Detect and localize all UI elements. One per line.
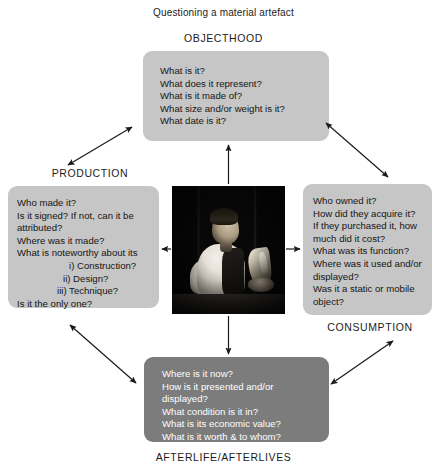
question-item: displayed? bbox=[162, 393, 329, 406]
question-item: much did it cost? bbox=[313, 233, 432, 246]
question-item: What is it made of? bbox=[160, 90, 329, 103]
question-list-consumption: Who owned it? How did they acquire it? I… bbox=[313, 195, 432, 308]
question-item: What is noteworthy about its bbox=[17, 247, 159, 260]
question-item: What is it worth & to whom? bbox=[162, 431, 329, 444]
question-item: Where was it used and/or bbox=[313, 258, 432, 271]
question-item: How did they acquire it? bbox=[313, 208, 432, 221]
question-item: Was it a static or mobile bbox=[313, 283, 432, 296]
question-list-production: Who made it? Is it signed? If not, can i… bbox=[17, 197, 159, 310]
node-label-afterlife: AFTERLIFE/AFTERLIVES bbox=[0, 452, 447, 463]
connector-objecthood-to-consumption bbox=[326, 123, 388, 177]
question-item: displayed? bbox=[313, 271, 432, 284]
question-item: What is it? bbox=[160, 65, 329, 78]
node-box-objecthood: What is it? What does it represent? What… bbox=[143, 51, 329, 141]
question-item: Is it signed? If not, can it be bbox=[17, 210, 159, 223]
connector-production-to-objecthood bbox=[68, 127, 132, 165]
node-box-afterlife: Where is it now? How is it presented and… bbox=[144, 357, 329, 442]
node-box-production: Who made it? Is it signed? If not, can i… bbox=[8, 186, 159, 308]
question-item: Who made it? bbox=[17, 197, 159, 210]
question-item: What condition is it in? bbox=[162, 406, 329, 419]
node-label-objecthood: OBJECTHOOD bbox=[0, 33, 447, 44]
question-item: Who owned it? bbox=[313, 195, 432, 208]
connector-afterlife-to-consumption bbox=[331, 341, 393, 384]
question-list-objecthood: What is it? What does it represent? What… bbox=[160, 65, 329, 128]
node-label-production: PRODUCTION bbox=[20, 168, 160, 179]
question-item: What does it represent? bbox=[160, 78, 329, 91]
question-list-afterlife: Where is it now? How is it presented and… bbox=[162, 368, 329, 444]
question-item: What is its economic value? bbox=[162, 418, 329, 431]
node-box-consumption: Who owned it? How did they acquire it? I… bbox=[303, 184, 432, 315]
question-sub-item: iii) Technique? bbox=[17, 285, 159, 298]
question-item: How is it presented and/or bbox=[162, 381, 329, 394]
centre-photograph bbox=[172, 186, 285, 314]
question-item: Is it the only one? bbox=[17, 298, 159, 311]
question-item: Where is it now? bbox=[162, 368, 329, 381]
question-sub-item: ii) Design? bbox=[17, 273, 159, 286]
question-item: What date is it? bbox=[160, 115, 329, 128]
node-label-consumption: CONSUMPTION bbox=[300, 322, 440, 333]
question-item: If they purchased it, how bbox=[313, 220, 432, 233]
photo-vignette bbox=[172, 186, 285, 314]
question-item: object? bbox=[313, 296, 432, 309]
question-item: Where was it made? bbox=[17, 235, 159, 248]
connector-production-to-afterlife bbox=[70, 325, 136, 383]
question-item: attributed? bbox=[17, 222, 159, 235]
question-item: What size and/or weight is it? bbox=[160, 103, 329, 116]
question-sub-item: i) Construction? bbox=[17, 260, 159, 273]
diagram-title: Questioning a material artefact bbox=[0, 8, 447, 18]
question-item: What was its function? bbox=[313, 245, 432, 258]
diagram-canvas: Questioning a material artefact OBJECTHO… bbox=[0, 0, 447, 472]
